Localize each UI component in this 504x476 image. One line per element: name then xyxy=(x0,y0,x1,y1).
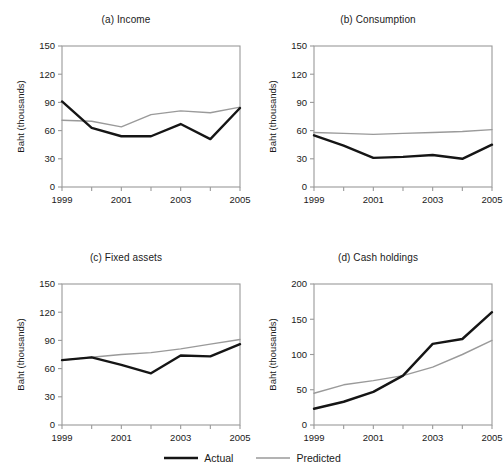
y-tick-label: 60 xyxy=(44,125,55,136)
x-tick-label: 2001 xyxy=(363,194,384,205)
x-tick-label: 2003 xyxy=(170,194,191,205)
y-tick-label: 0 xyxy=(302,419,307,430)
y-tick-label: 30 xyxy=(44,391,55,402)
legend-label-predicted: Predicted xyxy=(296,452,340,464)
y-tick-label: 0 xyxy=(302,181,307,192)
panel-a-income: (a) Income 03060901201501999200120032005… xyxy=(0,0,252,238)
y-axis-title: Baht (thousands) xyxy=(15,80,26,152)
series-line-predicted xyxy=(314,340,492,393)
y-axis-title: Baht (thousands) xyxy=(267,318,278,390)
y-tick-label: 0 xyxy=(50,419,55,430)
y-tick-label: 30 xyxy=(44,153,55,164)
y-tick-label: 150 xyxy=(39,40,55,51)
y-tick-label: 200 xyxy=(291,278,307,289)
y-tick-label: 90 xyxy=(296,97,307,108)
y-tick-label: 120 xyxy=(39,307,55,318)
legend-label-actual: Actual xyxy=(204,452,233,464)
plot-frame xyxy=(314,284,492,425)
legend-swatch-predicted xyxy=(255,453,291,463)
y-tick-label: 150 xyxy=(291,40,307,51)
y-tick-label: 150 xyxy=(39,278,55,289)
series-line-actual xyxy=(62,344,240,373)
x-tick-label: 2005 xyxy=(229,194,250,205)
panel-a-plot: 03060901201501999200120032005Baht (thous… xyxy=(0,0,252,238)
y-tick-label: 0 xyxy=(50,181,55,192)
series-line-actual xyxy=(314,135,492,159)
x-tick-label: 1999 xyxy=(303,194,324,205)
y-tick-label: 50 xyxy=(296,384,307,395)
chart-legend: Actual Predicted xyxy=(0,440,504,476)
legend-item-predicted: Predicted xyxy=(255,452,340,464)
y-tick-label: 90 xyxy=(44,97,55,108)
panel-b-consumption: (b) Consumption 030609012015019992001200… xyxy=(252,0,504,238)
plot-frame xyxy=(314,46,492,187)
x-tick-label: 1999 xyxy=(51,194,72,205)
x-tick-label: 2003 xyxy=(422,194,443,205)
panel-b-plot: 03060901201501999200120032005Baht (thous… xyxy=(252,0,504,238)
series-line-predicted xyxy=(314,130,492,135)
x-tick-label: 2005 xyxy=(481,194,502,205)
y-tick-label: 60 xyxy=(296,125,307,136)
x-tick-label: 2001 xyxy=(111,194,132,205)
y-tick-label: 30 xyxy=(296,153,307,164)
y-tick-label: 100 xyxy=(291,349,307,360)
legend-item-actual: Actual xyxy=(163,452,233,464)
series-line-actual xyxy=(62,101,240,139)
y-tick-label: 150 xyxy=(291,314,307,325)
y-axis-title: Baht (thousands) xyxy=(267,80,278,152)
y-tick-label: 120 xyxy=(39,69,55,80)
figure-multi-panel-line-charts: (a) Income 03060901201501999200120032005… xyxy=(0,0,504,476)
y-axis-title: Baht (thousands) xyxy=(15,318,26,390)
y-tick-label: 60 xyxy=(44,363,55,374)
plot-frame xyxy=(62,46,240,187)
y-tick-label: 120 xyxy=(291,69,307,80)
y-tick-label: 90 xyxy=(44,335,55,346)
legend-swatch-actual xyxy=(163,453,199,463)
series-line-actual xyxy=(314,312,492,409)
